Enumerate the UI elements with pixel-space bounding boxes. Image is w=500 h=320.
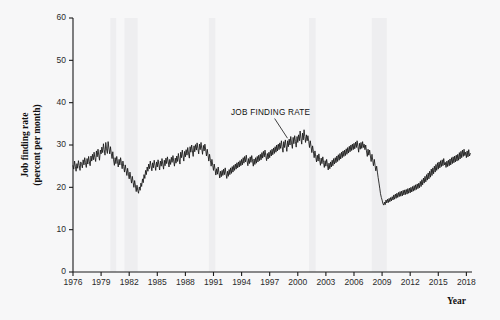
y-tick-label: 0 — [61, 266, 66, 276]
y-tick-label: 40 — [57, 97, 67, 107]
figure-container: 0102030405060 19761979198219851988199119… — [0, 0, 500, 320]
y-tick-label: 10 — [57, 224, 67, 234]
x-tick-label: 1985 — [148, 277, 167, 287]
y-tick-label: 50 — [57, 55, 67, 65]
x-tick-label: 1979 — [92, 277, 111, 287]
job-finding-rate-chart: 0102030405060 19761979198219851988199119… — [0, 0, 500, 320]
recession-1981-82 — [125, 18, 138, 272]
x-tick-label: 1994 — [232, 277, 251, 287]
recession-1990-91 — [209, 18, 216, 272]
x-tick-label: 1976 — [64, 277, 83, 287]
x-tick-label: 2009 — [373, 277, 392, 287]
x-tick-label: 2018 — [457, 277, 476, 287]
x-tick-label: 1991 — [204, 277, 223, 287]
x-tick-label: 1982 — [120, 277, 139, 287]
annotation-label: JOB FINDING RATE — [231, 108, 311, 117]
y-axis-title-line1: Job finding rate — [20, 113, 30, 178]
x-axis-title: Year — [447, 296, 467, 306]
y-axis-title-line2: (percent per month) — [32, 104, 43, 185]
recession-1980 — [110, 18, 116, 272]
x-tick-label: 2003 — [316, 277, 335, 287]
y-tick-label: 20 — [57, 182, 67, 192]
x-tick-label: 1997 — [260, 277, 279, 287]
recession-2007-09 — [372, 18, 387, 272]
y-tick-label: 30 — [57, 139, 67, 149]
x-tick-label: 2015 — [429, 277, 448, 287]
x-tick-label: 2012 — [401, 277, 420, 287]
x-tick-label: 2000 — [288, 277, 307, 287]
x-tick-label: 2006 — [345, 277, 364, 287]
y-tick-label: 60 — [57, 12, 67, 22]
x-tick-label: 1988 — [176, 277, 195, 287]
